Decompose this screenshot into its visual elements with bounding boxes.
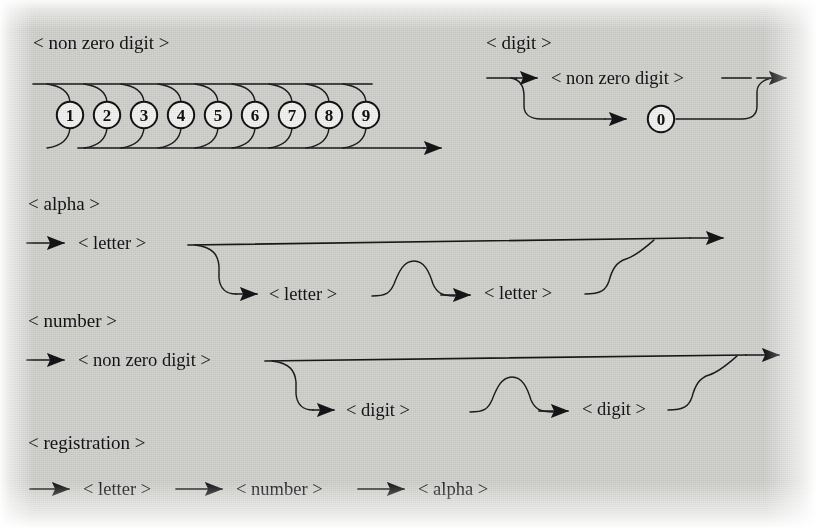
- section-title-non-zero-digit: < non zero digit >: [33, 32, 169, 53]
- syntax-diagrams-canvas: < non zero digit >: [0, 0, 816, 528]
- merge-bottom-digit: [676, 78, 772, 119]
- terminal-8[interactable]: 8: [316, 102, 342, 128]
- branch-out-3: [121, 128, 144, 148]
- syntax-diagram-page: < non zero digit >: [0, 0, 816, 528]
- terminal-label-9: 9: [362, 106, 371, 125]
- section-non-zero-digit: < non zero digit >: [33, 32, 441, 149]
- terminal-label-1: 1: [66, 106, 75, 125]
- hump-number: [470, 377, 553, 412]
- branch-in-1: [47, 84, 70, 102]
- branch-out-9: [343, 128, 366, 148]
- hump-alpha: [372, 261, 455, 296]
- section-number: < number > < non zero digit > < digit > …: [27, 310, 779, 421]
- terminal-2[interactable]: 2: [94, 102, 120, 128]
- drop-alpha-opt1: [195, 245, 236, 294]
- branch-out-8: [306, 128, 329, 148]
- label-registration-number: < number >: [236, 479, 323, 499]
- branch-out-7: [269, 128, 292, 148]
- section-title-digit: < digit >: [486, 32, 552, 53]
- terminal-3[interactable]: 3: [131, 102, 157, 128]
- section-title-number: < number >: [28, 310, 117, 331]
- terminal-label-2: 2: [103, 106, 112, 125]
- branch-in-6: [232, 84, 255, 102]
- terminal-0[interactable]: 0: [648, 106, 674, 132]
- terminal-label-8: 8: [325, 106, 334, 125]
- terminal-1[interactable]: 1: [57, 102, 83, 128]
- main-rail-number: [265, 355, 746, 361]
- label-number-opt2: < digit >: [582, 399, 646, 419]
- label-non-zero-digit-ref: < non zero digit >: [551, 68, 684, 88]
- label-registration-letter: < letter >: [83, 479, 151, 499]
- terminal-label-5: 5: [214, 106, 223, 125]
- terminal-6[interactable]: 6: [242, 102, 268, 128]
- label-alpha-first: < letter >: [78, 233, 146, 253]
- label-alpha-opt1: < letter >: [269, 284, 337, 304]
- return-alpha: [585, 240, 654, 294]
- label-number-first: < non zero digit >: [78, 350, 211, 370]
- branch-in-8: [306, 84, 329, 102]
- terminal-9[interactable]: 9: [353, 102, 379, 128]
- branch-out-4: [158, 128, 181, 148]
- branch-in-3: [121, 84, 144, 102]
- terminal-5[interactable]: 5: [205, 102, 231, 128]
- label-alpha-opt2: < letter >: [484, 283, 552, 303]
- label-number-opt1: < digit >: [346, 400, 410, 420]
- branch-in-4: [158, 84, 181, 102]
- branch-in-7: [269, 84, 292, 102]
- section-registration: < registration > < letter > < number > <…: [28, 432, 488, 500]
- branch-out-2: [84, 128, 107, 148]
- label-registration-alpha: < alpha >: [418, 479, 488, 499]
- branch-out-5: [195, 128, 218, 148]
- main-rail-alpha: [188, 238, 690, 245]
- terminal-label-3: 3: [140, 106, 149, 125]
- section-title-alpha: < alpha >: [28, 193, 100, 214]
- terminal-label-6: 6: [251, 106, 260, 125]
- terminal-7[interactable]: 7: [279, 102, 305, 128]
- branch-in-9: [343, 84, 366, 102]
- section-digit: < digit > < non zero digit > 0: [486, 32, 786, 133]
- drop-number-opt1: [272, 361, 313, 410]
- branch-out-1: [47, 128, 70, 148]
- branch-in-5: [195, 84, 218, 102]
- terminal-label-4: 4: [177, 106, 186, 125]
- branch-in-2: [84, 84, 107, 102]
- section-title-registration: < registration >: [28, 432, 145, 453]
- terminal-4[interactable]: 4: [168, 102, 194, 128]
- terminal-label-0: 0: [657, 110, 666, 129]
- return-number: [668, 356, 737, 410]
- branch-out-6: [232, 128, 255, 148]
- terminal-label-7: 7: [288, 106, 297, 125]
- section-alpha: < alpha > < letter > < letter > < letter…: [27, 193, 723, 305]
